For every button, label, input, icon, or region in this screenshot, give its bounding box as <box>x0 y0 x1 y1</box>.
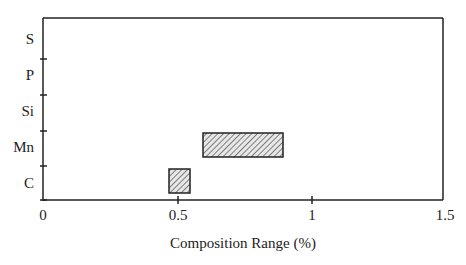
x-axis-title: Composition Range (%) <box>143 236 343 251</box>
y-label-p: P <box>0 68 34 83</box>
x-tick-label-1-5: 1.5 <box>425 208 465 223</box>
x-tick-label-0-5: 0.5 <box>158 208 198 223</box>
y-label-si: Si <box>0 104 34 119</box>
chart-canvas <box>0 0 466 265</box>
bar-mn <box>203 133 283 157</box>
y-label-mn: Mn <box>0 140 34 155</box>
x-tick-label-0: 0 <box>23 208 63 223</box>
y-label-c: C <box>0 176 34 191</box>
x-tick-label-1: 1 <box>292 208 332 223</box>
plot-frame <box>43 18 443 201</box>
bar-c <box>169 169 190 193</box>
y-label-s: S <box>0 32 34 47</box>
